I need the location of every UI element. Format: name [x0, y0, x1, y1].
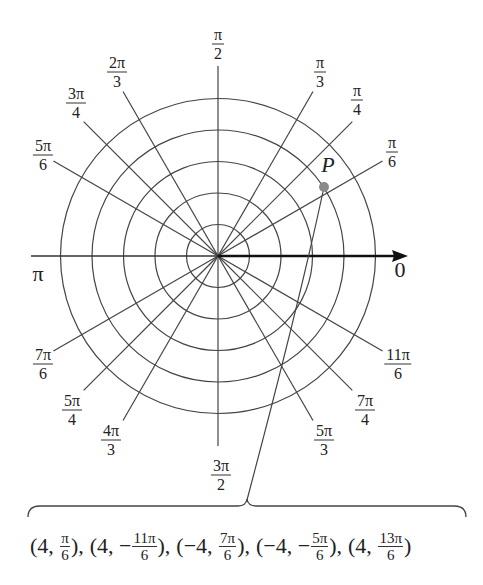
polar-coordinate-2: (4, −11π6), [90, 530, 171, 563]
angle-label-7pi-over-4: 7π4 [355, 393, 375, 428]
angle-label-5pi-over-6: 5π6 [33, 138, 53, 173]
denominator: 6 [387, 547, 395, 563]
numerator: 11π [384, 347, 411, 365]
numerator: 7π [355, 393, 375, 411]
angle-label-pi-over-3: π3 [314, 55, 326, 90]
angle-label-pi-over-6: π6 [386, 135, 398, 170]
ray-120deg [123, 91, 218, 256]
ray-330deg [218, 256, 383, 351]
angle-label-7pi-over-6: 7π6 [33, 347, 53, 382]
angle-label-pi-over-4: π4 [351, 83, 363, 118]
denominator: 6 [224, 547, 232, 563]
denominator: 4 [361, 411, 369, 428]
minus-sign: − [298, 533, 310, 559]
coord-close: ), [158, 533, 171, 559]
coord-open: (4, [30, 533, 59, 559]
numerator: π [351, 83, 363, 101]
denominator: 6 [39, 365, 47, 382]
angle-label-5pi-over-3: 5π3 [314, 423, 334, 458]
coord-close: ), [329, 533, 342, 559]
numerator: 7π [33, 347, 53, 365]
numerator: π [60, 530, 70, 547]
angle-fraction: 11π6 [132, 530, 156, 563]
angle-label-2pi-over-3: 2π3 [107, 55, 127, 90]
denominator: 6 [141, 547, 149, 563]
denominator: 3 [316, 73, 324, 90]
polar-coordinate-1: (4, π6), [30, 530, 84, 563]
ray-225deg [84, 256, 218, 390]
polar-axis [31, 250, 408, 262]
numerator: 3π [66, 86, 86, 104]
numerator: 5π [33, 138, 53, 156]
point-p-label: P [321, 152, 334, 178]
ray-240deg [123, 256, 218, 421]
ray-210deg [53, 256, 218, 351]
leader-line [247, 187, 324, 500]
denominator: 6 [388, 153, 396, 170]
numerator: 4π [101, 423, 121, 441]
numerator: 7π [219, 530, 236, 547]
numerator: 11π [132, 530, 156, 547]
axis-label-zero: 0 [395, 257, 406, 283]
angle-label-11pi-over-6: 11π6 [384, 347, 411, 382]
axis-label-pi: π [32, 261, 43, 287]
polar-coordinate-5: (4, 13π6) [348, 530, 411, 563]
point-p-marker [319, 182, 329, 192]
coord-close: ) [404, 533, 411, 559]
coord-open: (4, [90, 533, 119, 559]
coord-close: ), [71, 533, 84, 559]
denominator: 2 [214, 45, 222, 62]
coord-open: (4, [348, 533, 377, 559]
minus-sign: − [119, 533, 131, 559]
curly-brace [28, 499, 466, 517]
polar-coordinate-3: (−4, 7π6), [176, 530, 250, 563]
ray-60deg [218, 91, 313, 256]
ray-135deg [84, 122, 218, 256]
denominator: 2 [217, 476, 225, 493]
numerator: 5π [314, 423, 334, 441]
ray-45deg [218, 122, 352, 256]
coord-open: (−4, [256, 533, 298, 559]
numerator: π [314, 55, 326, 73]
angle-label-pi-over-2: π2 [212, 27, 224, 62]
denominator: 6 [316, 547, 324, 563]
numerator: 5π [311, 530, 328, 547]
angle-fraction: 13π6 [378, 530, 403, 563]
coord-close: ), [237, 533, 250, 559]
numerator: π [212, 27, 224, 45]
angle-fraction: 5π6 [311, 530, 328, 563]
angle-fraction: 7π6 [219, 530, 236, 563]
numerator: 2π [107, 55, 127, 73]
ray-150deg [53, 161, 218, 256]
denominator: 4 [353, 101, 361, 118]
coord-open: (−4, [176, 533, 218, 559]
denominator: 6 [61, 547, 69, 563]
denominator: 3 [107, 441, 115, 458]
coordinate-representations: (4, π6),(4, −11π6),(−4, 7π6),(−4, −5π6),… [30, 521, 470, 571]
angle-label-4pi-over-3: 4π3 [101, 423, 121, 458]
numerator: 5π [62, 393, 82, 411]
denominator: 3 [320, 441, 328, 458]
polar-coordinate-4: (−4, −5π6), [256, 530, 342, 563]
angle-label-3pi-over-2: 3π2 [211, 458, 231, 493]
denominator: 3 [113, 73, 121, 90]
denominator: 4 [68, 411, 76, 428]
denominator: 4 [72, 104, 80, 121]
numerator: 13π [378, 530, 403, 547]
ray-300deg [218, 256, 313, 421]
denominator: 6 [39, 156, 47, 173]
angle-fraction: π6 [60, 530, 70, 563]
ray-30deg [218, 161, 383, 256]
angle-label-5pi-over-4: 5π4 [62, 393, 82, 428]
ray-315deg [218, 256, 352, 390]
numerator: π [386, 135, 398, 153]
angle-label-3pi-over-4: 3π4 [66, 86, 86, 121]
denominator: 6 [394, 365, 402, 382]
numerator: 3π [211, 458, 231, 476]
